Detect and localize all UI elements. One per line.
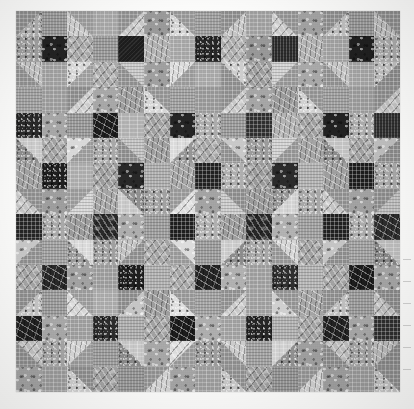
photograph xyxy=(0,0,414,409)
quilt-patch xyxy=(93,113,119,138)
quilt-patch xyxy=(170,367,196,392)
patch-fabric xyxy=(246,341,272,366)
quilt-patch xyxy=(195,138,221,163)
quilt-patch xyxy=(374,367,400,392)
quilt-patch xyxy=(272,87,298,112)
quilt-patch xyxy=(246,62,272,87)
quilt-patch xyxy=(42,113,68,138)
quilt-patch xyxy=(349,62,375,87)
quilt-patch xyxy=(272,189,298,214)
patch-fabric xyxy=(246,240,272,265)
patch-fabric xyxy=(118,36,144,61)
quilt-patch xyxy=(298,316,324,341)
patch-fabric xyxy=(67,113,93,138)
patch-fabric xyxy=(272,113,298,138)
quilt-patch xyxy=(93,87,119,112)
quilt-patch xyxy=(170,36,196,61)
patch-fabric xyxy=(42,11,68,36)
quilt-patch xyxy=(67,138,93,163)
patch-fabric xyxy=(246,62,272,87)
patch-fabric xyxy=(298,113,324,138)
quilt-patch xyxy=(323,11,349,36)
quilt-patch xyxy=(42,62,68,87)
quilt-patch xyxy=(298,36,324,61)
quilt-patch xyxy=(170,316,196,341)
quilt-patch xyxy=(67,240,93,265)
patch-fabric xyxy=(323,36,349,61)
patch-fabric xyxy=(144,163,170,188)
patch-fabric xyxy=(195,214,221,239)
patch-fabric xyxy=(42,214,68,239)
quilt-patch xyxy=(323,62,349,87)
quilt-patch xyxy=(374,316,400,341)
quilt-patch xyxy=(16,62,42,87)
patch-fabric xyxy=(246,87,272,112)
patch-fabric xyxy=(144,36,170,61)
patch-fabric xyxy=(16,316,42,341)
quilt-patch xyxy=(349,36,375,61)
quilt-patch xyxy=(349,240,375,265)
quilt-patch xyxy=(16,341,42,366)
quilt-patch xyxy=(323,316,349,341)
patch-fabric xyxy=(93,290,119,315)
patch-fabric xyxy=(170,36,196,61)
quilt-patch xyxy=(93,163,119,188)
quilt-patch xyxy=(144,62,170,87)
quilt-patch xyxy=(144,11,170,36)
patch-fabric xyxy=(93,36,119,61)
patch-fabric xyxy=(374,316,400,341)
patch-fabric xyxy=(67,36,93,61)
patch-fabric xyxy=(246,163,272,188)
quilt-patch xyxy=(42,265,68,290)
patch-fabric xyxy=(246,113,272,138)
patch-fabric xyxy=(195,316,221,341)
quilt-patch xyxy=(349,341,375,366)
quilt-patch xyxy=(67,316,93,341)
patch-fabric xyxy=(118,87,144,112)
patch-fabric xyxy=(118,265,144,290)
patch-fabric xyxy=(349,189,375,214)
quilt-patch xyxy=(272,290,298,315)
quilt-patch xyxy=(221,316,247,341)
quilt-patch xyxy=(42,87,68,112)
patch-fabric xyxy=(374,214,400,239)
quilt-patch xyxy=(170,113,196,138)
quilt-patch xyxy=(67,189,93,214)
quilt-patch xyxy=(67,87,93,112)
quilt-patch xyxy=(118,36,144,61)
quilt-patch xyxy=(42,11,68,36)
quilt-patch xyxy=(67,36,93,61)
quilt-patch xyxy=(195,87,221,112)
quilt-patch xyxy=(272,36,298,61)
quilt-patch xyxy=(118,62,144,87)
quilt-patch xyxy=(144,163,170,188)
quilt-patch xyxy=(93,138,119,163)
patch-fabric xyxy=(349,240,375,265)
patch-fabric xyxy=(298,163,324,188)
patch-fabric xyxy=(144,138,170,163)
patch-fabric xyxy=(42,36,68,61)
quilt-patch xyxy=(144,36,170,61)
quilt-patch xyxy=(118,316,144,341)
patch-fabric xyxy=(93,316,119,341)
quilt-patch xyxy=(374,341,400,366)
patch-fabric xyxy=(93,113,119,138)
quilt-patch xyxy=(221,367,247,392)
patch-fabric xyxy=(16,87,42,112)
quilt-patch xyxy=(246,87,272,112)
quilt-patch xyxy=(298,341,324,366)
patch-fabric xyxy=(349,341,375,366)
quilt-patch xyxy=(42,214,68,239)
quilt-patch xyxy=(374,113,400,138)
quilt-patch xyxy=(195,113,221,138)
patch-fabric xyxy=(221,316,247,341)
patch-fabric xyxy=(298,62,324,87)
patch-fabric xyxy=(67,265,93,290)
quilt-patch xyxy=(298,113,324,138)
quilt-patch xyxy=(221,240,247,265)
patch-fabric xyxy=(221,163,247,188)
patch-fabric xyxy=(93,265,119,290)
patch-fabric xyxy=(67,214,93,239)
quilt-patch xyxy=(170,240,196,265)
quilt-patch xyxy=(16,214,42,239)
